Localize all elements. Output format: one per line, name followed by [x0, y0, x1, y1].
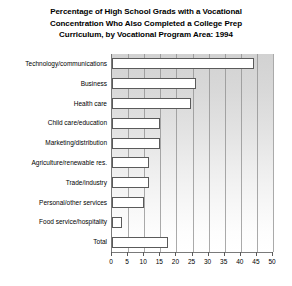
- bar: [112, 78, 196, 89]
- bar: [112, 197, 144, 208]
- y-axis-category-label: Personal/other services: [0, 199, 107, 207]
- x-tick-mark: [143, 252, 144, 256]
- x-tick-label: 50: [263, 258, 281, 266]
- x-tick-mark: [111, 252, 112, 256]
- bar: [112, 118, 160, 129]
- gridline: [225, 54, 226, 252]
- y-axis-category-label: Business: [0, 80, 107, 88]
- bar: [112, 138, 160, 149]
- chart-figure: Percentage of High School Grads with a V…: [0, 0, 292, 286]
- y-axis-category-label: Food service/hospitality: [0, 218, 107, 226]
- bar: [112, 237, 168, 248]
- gridline: [257, 54, 258, 252]
- x-tick-mark: [159, 252, 160, 256]
- x-tick-mark: [208, 252, 209, 256]
- y-axis-category-label: Health care: [0, 100, 107, 108]
- y-axis-labels: Technology/communicationsBusinessHealth …: [0, 0, 108, 286]
- y-axis-category-label: Technology/communications: [0, 60, 107, 68]
- plot-area: [111, 54, 273, 253]
- bar: [112, 58, 254, 69]
- bar: [112, 157, 149, 168]
- gridline: [241, 54, 242, 252]
- y-axis-category-label: Child care/education: [0, 119, 107, 127]
- gridline: [273, 54, 274, 252]
- x-tick-mark: [127, 252, 128, 256]
- x-tick-mark: [224, 252, 225, 256]
- x-tick-mark: [175, 252, 176, 256]
- y-axis-category-label: Total: [0, 238, 107, 246]
- x-tick-mark: [192, 252, 193, 256]
- x-tick-mark: [272, 252, 273, 256]
- x-tick-mark: [240, 252, 241, 256]
- bar: [112, 98, 191, 109]
- x-tick-mark: [256, 252, 257, 256]
- y-axis-category-label: Trade/industry: [0, 179, 107, 187]
- y-axis-category-label: Marketing/distribution: [0, 139, 107, 147]
- bar: [112, 217, 122, 228]
- gridline: [209, 54, 210, 252]
- bar: [112, 177, 149, 188]
- y-axis-category-label: Agriculture/renewable res.: [0, 159, 107, 167]
